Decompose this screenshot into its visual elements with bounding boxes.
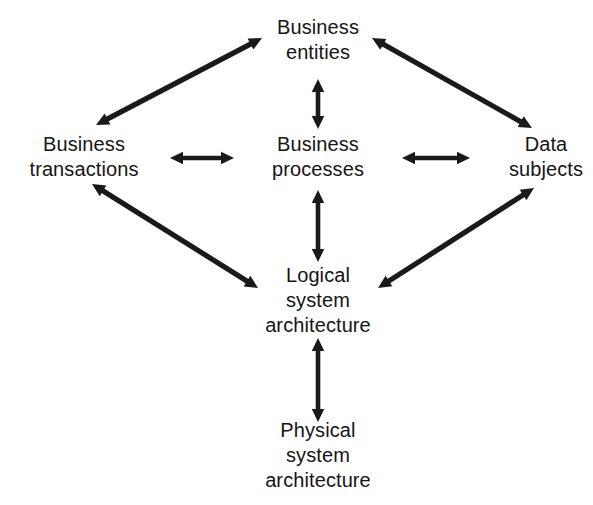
node-label-line: Physical xyxy=(265,418,371,443)
node-label-line: transactions xyxy=(29,157,138,182)
edge-transactions-processes xyxy=(170,152,234,164)
edge-transactions-logical-architecture xyxy=(92,184,258,288)
edge-logical-physical-architecture xyxy=(312,338,324,422)
node-label-line: subjects xyxy=(509,157,583,182)
diagram-canvas: BusinessentitiesBusinesstransactionsBusi… xyxy=(0,0,593,505)
arrowhead-icon xyxy=(221,152,234,164)
arrowhead-icon xyxy=(402,152,415,164)
node-physical-system-architecture: Physicalsystemarchitecture xyxy=(265,418,371,493)
node-label-line: Logical xyxy=(265,263,371,288)
node-label-line: entities xyxy=(277,40,359,65)
node-business-transactions: Businesstransactions xyxy=(29,132,138,182)
edge-transactions-entities xyxy=(96,38,262,125)
edge-shaft xyxy=(101,190,249,283)
edge-shaft xyxy=(381,43,523,123)
edge-processes-logical-architecture xyxy=(312,190,324,262)
node-label-line: system xyxy=(265,288,371,313)
edge-logical-architecture-data-subjects xyxy=(378,188,534,288)
edge-entities-processes xyxy=(312,79,324,129)
node-label-line: Business xyxy=(272,132,364,157)
node-label-line: Business xyxy=(29,132,138,157)
node-logical-system-architecture: Logicalsystemarchitecture xyxy=(265,263,371,338)
edge-shaft xyxy=(105,43,253,120)
arrowhead-icon xyxy=(312,338,324,351)
node-data-subjects: Datasubjects xyxy=(509,132,583,182)
node-business-entities: Businessentities xyxy=(277,15,359,65)
edge-processes-data-subjects xyxy=(402,152,470,164)
node-business-processes: Businessprocesses xyxy=(272,132,364,182)
edge-shaft xyxy=(387,194,525,283)
arrowhead-icon xyxy=(312,116,324,129)
arrowhead-icon xyxy=(312,79,324,92)
arrowhead-icon xyxy=(312,190,324,203)
node-label-line: Data xyxy=(509,132,583,157)
node-label-line: system xyxy=(265,443,371,468)
node-label-line: architecture xyxy=(265,313,371,338)
node-label-line: architecture xyxy=(265,468,371,493)
arrowhead-icon xyxy=(312,249,324,262)
arrowhead-icon xyxy=(170,152,183,164)
arrowhead-icon xyxy=(457,152,470,164)
edge-entities-data-subjects xyxy=(372,38,532,128)
node-label-line: processes xyxy=(272,157,364,182)
node-label-line: Business xyxy=(277,15,359,40)
